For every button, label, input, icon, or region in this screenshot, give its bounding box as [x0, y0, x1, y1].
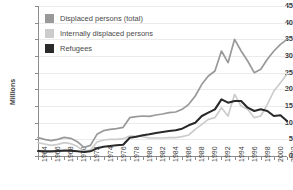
x-axis-tick-mark [77, 157, 78, 160]
series-line [38, 99, 287, 152]
x-axis-tick-mark [274, 157, 275, 160]
x-axis-tick-mark [90, 157, 91, 160]
x-axis-tick-mark [130, 157, 131, 160]
x-axis-tick-mark [51, 157, 52, 160]
chart-legend: Displaced persons (total)Internally disp… [45, 12, 153, 57]
legend-swatch-icon [45, 29, 54, 38]
legend-swatch-icon [45, 14, 54, 23]
x-axis-tick-mark [287, 157, 288, 160]
x-axis-tick-label: 2002 [290, 146, 293, 162]
x-axis-tick-mark [261, 157, 262, 160]
y-axis-title: Millions [9, 79, 16, 105]
x-axis-tick-mark [156, 157, 157, 160]
legend-item[interactable]: Refugees [45, 42, 153, 55]
x-axis-tick-mark [248, 157, 249, 160]
x-axis-tick-mark [117, 157, 118, 160]
x-axis-tick-mark [143, 157, 144, 160]
x-axis-tick-mark [182, 157, 183, 160]
x-axis-tick-mark [38, 157, 39, 160]
legend-item[interactable]: Displaced persons (total) [45, 12, 153, 25]
x-axis-tick-mark [169, 157, 170, 160]
legend-item-label: Internally displaced persons [60, 29, 153, 38]
x-axis-tick-mark [195, 157, 196, 160]
x-axis-tick-mark [208, 157, 209, 160]
chart-container: Millions 051015202530354045 196419661968… [0, 0, 293, 190]
legend-swatch-icon [45, 44, 54, 53]
legend-item-label: Displaced persons (total) [60, 14, 143, 23]
legend-item[interactable]: Internally displaced persons [45, 27, 153, 40]
x-axis-tick-mark [104, 157, 105, 160]
x-axis-tick-mark [64, 157, 65, 160]
x-axis-tick-mark [235, 157, 236, 160]
legend-item-label: Refugees [60, 44, 92, 53]
x-axis-tick-mark [221, 157, 222, 160]
